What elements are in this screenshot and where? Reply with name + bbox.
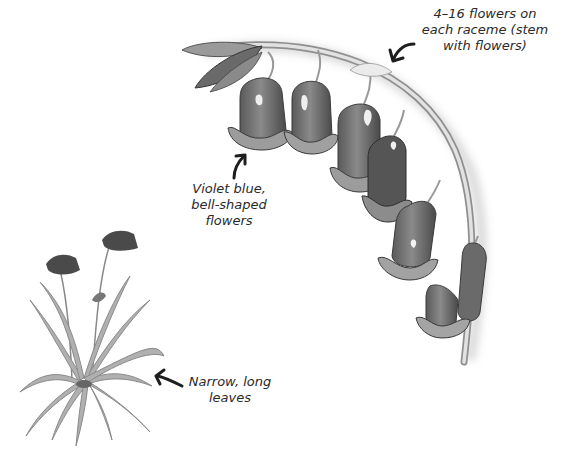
annotation-raceme-line-2: each raceme (stem <box>410 22 560 38</box>
annotation-raceme-line-3: with flowers) <box>410 38 560 54</box>
bluebell-diagram: 4–16 flowers on each raceme (stem with f… <box>0 0 568 451</box>
annotation-flowers-line-3: flowers <box>186 213 272 229</box>
annotation-leaves-line-2: leaves <box>182 390 278 406</box>
annotation-leaves: Narrow, long leaves <box>182 374 278 406</box>
annotation-flowers: Violet blue, bell-shaped flowers <box>186 181 272 229</box>
annotation-flowers-line-2: bell-shaped <box>186 197 272 213</box>
annotation-flowers-line-1: Violet blue, <box>186 181 272 197</box>
bell-flower-2 <box>284 50 338 154</box>
whole-plant <box>20 231 164 446</box>
annotation-raceme: 4–16 flowers on each raceme (stem with f… <box>410 6 560 54</box>
annotation-leaves-line-1: Narrow, long <box>182 374 278 390</box>
arrow-flowers-icon <box>234 155 245 178</box>
arrow-leaves-icon <box>156 370 182 386</box>
bluebell-illustration <box>0 0 568 451</box>
annotation-raceme-line-1: 4–16 flowers on <box>410 6 560 22</box>
